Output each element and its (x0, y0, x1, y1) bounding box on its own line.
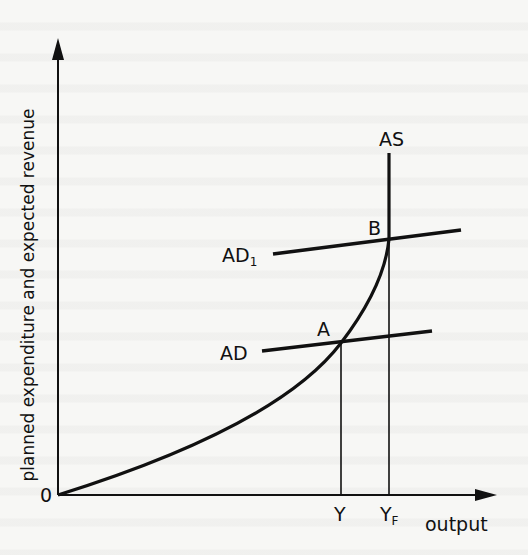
x-tick-yf-sub: F (392, 514, 399, 528)
ad1-label: AD1 (222, 246, 257, 268)
origin-label: 0 (40, 486, 52, 505)
x-tick-yf: YF (380, 505, 399, 527)
diagram-graphics (0, 0, 528, 555)
point-a-label: A (317, 320, 330, 339)
ad1-label-sub: 1 (250, 255, 258, 269)
ad1-label-main: AD (222, 244, 250, 266)
point-b-label: B (368, 219, 381, 238)
y-axis-arrow-icon (52, 38, 64, 60)
as-label: AS (379, 130, 404, 149)
x-axis-arrow-icon (475, 489, 497, 501)
x-tick-yf-main: Y (380, 503, 392, 525)
as-curve (58, 153, 389, 495)
x-axis-label: output (425, 515, 488, 534)
y-axis-label: planned expenditure and expected revenue (18, 109, 38, 482)
ad1-line (273, 230, 461, 254)
ad-label: AD (220, 344, 248, 363)
diagram-canvas: planned expenditure and expected revenue… (0, 0, 528, 555)
x-tick-y: Y (334, 505, 346, 524)
